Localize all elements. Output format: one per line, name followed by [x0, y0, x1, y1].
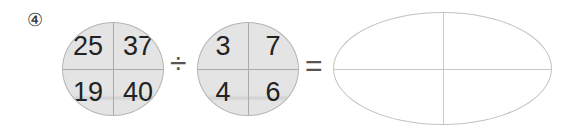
divide-sign: ÷: [170, 46, 186, 80]
dividend-circle: 25 37 19 40: [62, 22, 164, 116]
dividend-top-right: 37: [113, 23, 163, 69]
result-bottom-left[interactable]: [334, 69, 443, 125]
result-bottom-right[interactable]: [443, 69, 552, 125]
divisor-top-right: 7: [248, 23, 298, 69]
divisor-bottom-left: 4: [198, 69, 248, 115]
problem-number: ④: [27, 9, 43, 31]
dividend-bottom-right: 40: [113, 69, 163, 115]
dividend-top-left: 25: [63, 23, 113, 69]
equals-sign: =: [305, 49, 323, 83]
divisor-top-left: 3: [198, 23, 248, 69]
divisor-circle: 3 7 4 6: [197, 22, 299, 116]
divisor-bottom-right: 6: [248, 69, 298, 115]
result-ellipse: [333, 12, 552, 125]
result-top-right[interactable]: [443, 13, 552, 69]
result-top-left[interactable]: [334, 13, 443, 69]
dividend-bottom-left: 19: [63, 69, 113, 115]
